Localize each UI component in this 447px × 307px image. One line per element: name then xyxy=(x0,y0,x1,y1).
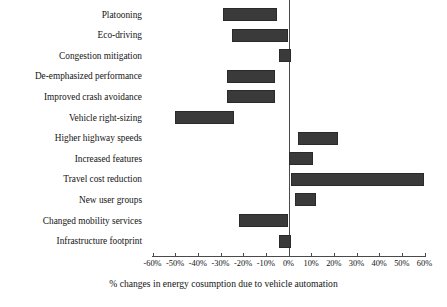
bar xyxy=(295,193,315,206)
bar xyxy=(291,173,425,186)
x-axis-tick xyxy=(198,253,199,257)
x-axis-tick-label: 40% xyxy=(371,259,386,269)
x-axis-tick-label: 20% xyxy=(326,259,341,269)
category-label: Travel cost reduction xyxy=(0,174,142,184)
category-label: Higher highway speeds xyxy=(0,133,142,143)
x-axis-tick xyxy=(425,253,426,257)
bar xyxy=(175,111,234,124)
x-axis-tick-label: -20% xyxy=(234,259,252,269)
category-label: Increased features xyxy=(0,154,142,164)
category-label: Congestion mitigation xyxy=(0,51,142,61)
category-label: New user groups xyxy=(0,195,142,205)
x-axis-tick xyxy=(153,253,154,257)
category-axis-labels: PlatooningEco-drivingCongestion mitigati… xyxy=(0,0,148,253)
bar xyxy=(289,152,314,165)
x-axis-tick-label: 60% xyxy=(417,259,432,269)
plot-area xyxy=(148,0,433,253)
x-axis-tick xyxy=(221,253,222,257)
x-axis-tick-label: -10% xyxy=(257,259,275,269)
x-axis-tick xyxy=(379,253,380,257)
category-label: Changed mobility services xyxy=(0,216,142,226)
x-axis-tick xyxy=(334,253,335,257)
bar xyxy=(232,29,289,42)
x-axis-tick-label: 10% xyxy=(303,259,318,269)
zero-baseline xyxy=(289,0,290,257)
bar xyxy=(223,8,277,21)
bar xyxy=(298,132,339,145)
x-axis-tick xyxy=(289,253,290,257)
bar xyxy=(239,214,289,227)
category-label: De-emphasized performance xyxy=(0,71,142,81)
bar xyxy=(227,70,275,83)
x-axis-tick-label: -40% xyxy=(189,259,207,269)
x-axis-tick-label: -30% xyxy=(211,259,229,269)
x-axis-tick xyxy=(402,253,403,257)
category-label: Improved crash avoidance xyxy=(0,92,142,102)
x-axis-tick-label: 50% xyxy=(394,259,409,269)
x-axis-tick xyxy=(266,253,267,257)
x-axis-tick xyxy=(175,253,176,257)
category-label: Infrastructure footprint xyxy=(0,236,142,246)
x-axis-title: % changes in energy cosumption due to ve… xyxy=(0,278,447,289)
category-label: Vehicle right-sizing xyxy=(0,113,142,123)
bar xyxy=(279,49,290,62)
category-label: Eco-driving xyxy=(0,30,142,40)
x-axis-tick xyxy=(243,253,244,257)
x-axis-tick xyxy=(311,253,312,257)
x-axis-tick xyxy=(357,253,358,257)
category-label: Platooning xyxy=(0,10,142,20)
bar xyxy=(279,235,290,248)
energy-consumption-range-chart: PlatooningEco-drivingCongestion mitigati… xyxy=(0,0,447,307)
x-axis-tick-label: 30% xyxy=(349,259,364,269)
x-axis-tick-label: -60% xyxy=(143,259,161,269)
x-axis-tick-label: -50% xyxy=(166,259,184,269)
x-axis-tick-label: 0% xyxy=(283,259,294,269)
bar xyxy=(227,90,275,103)
